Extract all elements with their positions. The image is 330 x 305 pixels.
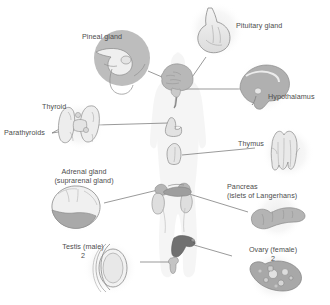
label-hypothalamus: Hypothalamus [268,93,315,102]
label-adrenal-gland-line2: (suprarenal gland) [34,177,134,186]
label-pituitary-gland: Pituitary gland [236,22,282,31]
hypothalamus-inset [237,59,291,113]
label-parathyroids: Parathyroids [4,129,45,138]
label-testis-count: 2 [40,252,126,261]
label-thyroid: Thyroid [42,103,66,112]
label-ovary-count: 2 [228,255,318,264]
thymus-inset [262,127,314,179]
label-pancreas-line2: (islets of Langerhans) [227,192,297,201]
label-pineal-gland: Pineal gland [82,33,122,42]
label-thymus: Thymus [238,140,264,149]
endocrine-system-diagram: Pineal gland Pituitary gland Hypothalamu… [0,0,330,305]
leader-line-ovary [194,245,232,256]
thymus-in-chest [167,144,181,165]
adrenal-gland-inset [49,181,101,233]
